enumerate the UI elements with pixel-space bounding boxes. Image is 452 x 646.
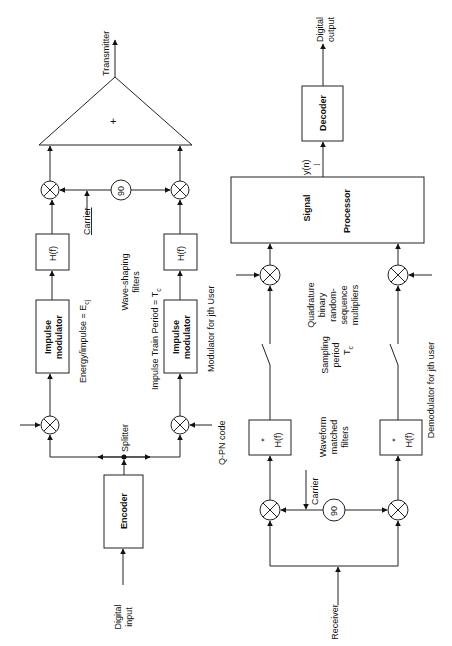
matched-filter-label: H(f) <box>404 433 414 448</box>
transmitter-section: Transmitter + 90 Carrier H(f) H(f) <box>20 31 227 630</box>
digital-input-label: input <box>124 607 134 627</box>
wave-shaping-label: filters <box>131 271 141 293</box>
matched-filter-star: * <box>390 438 400 442</box>
splitter-label: Splitter <box>120 424 130 452</box>
yn-label: y(n) <box>301 159 311 175</box>
quadrature-label: sequence <box>339 285 349 324</box>
quadrature-label: Quadrature <box>306 282 316 328</box>
multiplier-icon <box>41 416 59 434</box>
wave-shaping-label: Wave-shaping <box>120 253 130 310</box>
encoder-label: Encoder <box>119 493 129 530</box>
sampling-label: period <box>331 342 341 367</box>
impulse-modulator-label: Impulse <box>43 320 53 354</box>
impulse-period-label: Impulse Train Period = Tc <box>150 288 162 390</box>
modulator-caption: Modulator for jth User <box>206 285 216 372</box>
digital-output-label: output <box>326 16 336 42</box>
waveform-label: Waveform <box>318 417 328 458</box>
impulse-modulator-label: Impulse <box>171 320 181 354</box>
waveform-label: filters <box>340 426 350 448</box>
multiplier-icon <box>171 416 189 434</box>
signal-processor-label: Processor <box>342 188 352 233</box>
impulse-modulator-label: modulator <box>54 315 64 359</box>
filter-label: H(f) <box>176 246 186 261</box>
phase-shifter-label: 90 <box>116 186 126 196</box>
digital-output-label: Digital <box>315 17 325 42</box>
multiplier-icon <box>388 500 408 520</box>
cdma-block-diagram: Transmitter + 90 Carrier H(f) H(f) <box>0 0 452 646</box>
summer-triangle <box>39 77 192 145</box>
matched-filter-label: H(f) <box>273 433 283 448</box>
signal-processor-box <box>231 177 424 243</box>
demodulator-caption: Demodulator for jth user <box>426 342 436 439</box>
multiplier-icon <box>171 181 189 199</box>
impulse-modulator-label: modulator <box>182 315 192 359</box>
multiplier-icon <box>41 181 59 199</box>
carrier-label: Carrier <box>82 207 92 235</box>
multiplier-icon <box>388 265 408 285</box>
digital-input-label: Digital <box>113 604 123 629</box>
qpn-label: Q-PN code <box>217 420 227 465</box>
receiver-section: Digital output Decoder y(n) j Signal Pro… <box>231 16 436 639</box>
sampling-switch-icon <box>390 344 398 365</box>
sampling-switch-icon <box>262 344 270 365</box>
receiver-label: Receiver <box>330 604 340 640</box>
carrier-label: Carrier <box>310 477 320 505</box>
matched-filter-star: * <box>259 438 269 442</box>
filter-label: H(f) <box>48 246 58 261</box>
multiplier-icon <box>260 265 280 285</box>
multiplier-icon <box>260 500 280 520</box>
sampling-label: Sampling <box>320 336 330 374</box>
sampling-label: Tc <box>342 346 354 356</box>
waveform-label: matched <box>329 420 339 455</box>
quadrature-label: multipliers <box>350 284 360 325</box>
matched-filter-box <box>380 420 422 455</box>
summer-symbol: + <box>110 115 116 127</box>
signal-processor-label: Signal <box>302 194 312 221</box>
phase-shifter-label: 90 <box>329 506 339 516</box>
energy-label: Energy/impulse = Ecj <box>78 299 91 383</box>
splitter-dot <box>122 455 127 460</box>
matched-filter-box <box>249 420 291 455</box>
yn-sub: j <box>312 163 320 166</box>
transmitter-label: Transmitter <box>101 31 111 76</box>
quadrature-label: random- <box>328 288 338 322</box>
quadrature-label: binary <box>317 292 327 317</box>
decoder-label: Decoder <box>318 94 328 131</box>
